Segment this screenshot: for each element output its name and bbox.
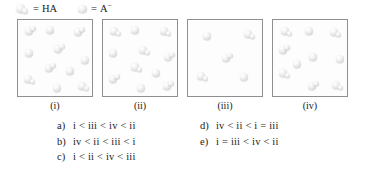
- sphere-a: [131, 26, 139, 34]
- answer-option-d-key: d): [200, 118, 216, 134]
- sphere-h: [284, 45, 290, 51]
- answer-option-c-key: c): [57, 149, 73, 165]
- sphere-h: [30, 26, 36, 32]
- box-label-iv: (iv): [272, 100, 348, 111]
- sphere-h: [116, 31, 122, 37]
- sphere-a: [293, 60, 301, 68]
- sphere-a: [46, 26, 54, 34]
- answer-option-b[interactable]: b) iv < ii < iii < i: [57, 134, 136, 150]
- legend-label-a-minus: A−: [100, 3, 112, 14]
- answer-option-e[interactable]: e) i = iii < iv < ii: [200, 134, 279, 150]
- sphere-a: [66, 67, 74, 75]
- sphere-h: [168, 81, 174, 87]
- legend-item-a-minus: = A−: [78, 3, 112, 14]
- box-label-ii: (ii): [102, 100, 178, 111]
- answer-option-b-key: b): [57, 134, 73, 150]
- sphere-h: [166, 31, 172, 37]
- box-label-iii: (iii): [187, 100, 263, 111]
- sphere-h: [137, 67, 143, 73]
- sphere-a: [137, 84, 145, 92]
- sphere-h: [145, 50, 151, 56]
- sphere-a: [336, 55, 344, 63]
- answer-option-c-text: i < ii < iv < iii: [73, 149, 136, 165]
- particle-box-i-contents: [18, 20, 92, 96]
- legend-equals-a-minus: =: [91, 3, 97, 14]
- sphere-h: [250, 34, 256, 40]
- answer-options-left-column: a) i < iii < iv < ii b) iv < ii < iii < …: [57, 118, 136, 165]
- answer-option-e-key: e): [200, 134, 216, 150]
- sphere-h: [227, 53, 233, 59]
- answer-option-a-text: i < iii < iv < ii: [73, 118, 136, 134]
- particle-box-ii: [102, 19, 178, 97]
- ha-molecule-icon: [16, 3, 30, 14]
- legend-label-ha: HA: [42, 3, 57, 14]
- legend: = HA = A−: [16, 1, 112, 16]
- sphere-h: [203, 76, 209, 82]
- sphere-a: [81, 56, 89, 64]
- sphere-h: [50, 63, 56, 69]
- answer-option-a[interactable]: a) i < iii < iv < ii: [57, 118, 136, 134]
- sphere-h: [338, 85, 344, 91]
- sphere-h: [336, 32, 342, 38]
- particle-box-iii-contents: [188, 20, 262, 96]
- particle-box-ii-contents: [103, 20, 177, 96]
- sphere-a: [203, 32, 211, 40]
- particle-box-iv-contents: [273, 20, 347, 96]
- answer-option-d[interactable]: d) iv < ii < i = iii: [200, 118, 279, 134]
- sphere-a: [305, 27, 313, 35]
- sphere-a: [25, 49, 33, 57]
- answer-option-b-text: iv < ii < iii < i: [73, 134, 136, 150]
- sphere-a: [309, 53, 317, 61]
- sphere-h: [285, 73, 291, 79]
- particle-box-iv: [272, 19, 348, 97]
- particle-box-i: [17, 19, 93, 97]
- legend-label-a-minus-charge: −: [108, 1, 112, 10]
- sphere-h: [114, 74, 120, 80]
- a-minus-ion-icon: [78, 3, 88, 14]
- sphere-h: [169, 52, 175, 58]
- sphere-a: [152, 69, 160, 77]
- answer-option-a-key: a): [57, 118, 73, 134]
- box-label-i: (i): [17, 100, 93, 111]
- answer-option-c[interactable]: c) i < ii < iv < iii: [57, 149, 136, 165]
- answer-option-e-text: i = iii < iv < ii: [216, 134, 279, 150]
- legend-label-a-minus-base: A: [100, 3, 108, 14]
- sphere-a: [109, 49, 117, 57]
- sphere-a: [53, 84, 61, 92]
- legend-item-ha: = HA: [16, 3, 57, 14]
- sphere-a: [240, 73, 248, 81]
- particle-box-iii: [187, 19, 263, 97]
- sphere-h: [59, 44, 65, 50]
- sphere-h: [287, 31, 293, 37]
- answer-option-d-text: iv < ii < i = iii: [216, 118, 279, 134]
- answer-options-right-column: d) iv < ii < i = iii e) i = iii < iv < i…: [200, 118, 279, 149]
- sphere-h: [79, 27, 85, 33]
- sphere-h: [84, 86, 90, 92]
- legend-equals-ha: =: [33, 3, 39, 14]
- sphere-h: [30, 79, 36, 85]
- sphere-h: [313, 81, 319, 87]
